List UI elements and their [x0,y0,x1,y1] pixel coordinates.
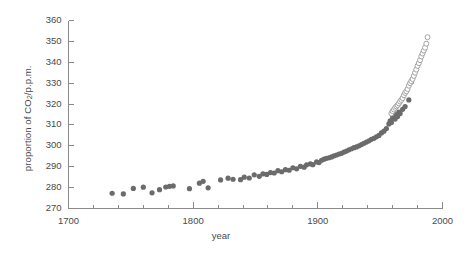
data-point-filled [110,191,115,196]
x-axis-label-text: year [212,230,230,241]
y-axis-tick-label: 330 [36,77,62,88]
data-point-open [424,41,429,46]
y-axis-tick-label: 270 [36,202,62,213]
data-point-filled [187,186,192,191]
data-point-filled [171,183,176,188]
y-axis-tick-label: 310 [36,118,62,129]
y-axis-label-tail: /p.p.m. [22,65,33,95]
y-axis-label-main: proportion of CO [22,99,33,171]
y-axis-tick-label: 350 [36,35,62,46]
data-point-filled [252,172,257,177]
y-axis-label-subscript: 2 [25,95,34,99]
data-point-open [425,35,430,40]
data-point-filled [121,191,126,196]
x-axis-tick-label: 1900 [298,215,338,226]
data-point-filled [206,185,211,190]
data-point-filled [247,175,252,180]
series-ice-core [110,80,414,197]
data-point-filled [141,185,146,190]
x-axis-tick-label: 1700 [49,215,89,226]
y-axis-tick-label: 300 [36,139,62,150]
data-point-filled [384,126,389,131]
data-point-filled [131,186,136,191]
data-point-filled [157,187,162,192]
axes [69,21,443,209]
y-axis-tick-label: 320 [36,98,62,109]
series-direct-measurement [389,35,430,116]
y-axis-tick-label: 340 [36,56,62,67]
data-point-filled [218,177,223,182]
data-point-filled [230,177,235,182]
data-point-filled [225,176,230,181]
x-axis-tick-label: 2000 [423,215,463,226]
y-axis-tick-label: 360 [36,14,62,25]
data-point-filled [406,97,411,102]
y-axis-tick-label: 280 [36,181,62,192]
co2-concentration-chart: proportion of CO2/p.p.m. year 2702802903… [0,0,468,256]
data-point-filled [403,104,408,109]
data-series-layer [110,35,431,197]
x-axis-tick-label: 1800 [173,215,213,226]
data-point-filled [149,190,154,195]
data-point-filled [201,179,206,184]
y-axis-label: proportion of CO2/p.p.m. [22,28,35,208]
x-axis-label: year [0,230,468,241]
data-point-filled [242,175,247,180]
y-axis-tick-label: 290 [36,160,62,171]
